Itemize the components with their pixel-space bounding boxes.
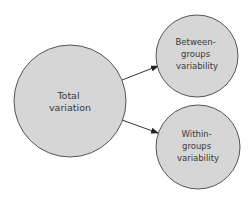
between-groups-label-line2: groups bbox=[181, 49, 211, 59]
arrow-total-to-between bbox=[122, 66, 158, 80]
within-groups-label-line1: Within- bbox=[182, 129, 212, 139]
between-groups-label-line1: Between- bbox=[176, 37, 216, 47]
arrow-total-to-within bbox=[122, 120, 158, 133]
variation-diagram: Total variation Between- groups variabil… bbox=[0, 0, 250, 200]
within-groups-label-line3: variability bbox=[177, 153, 219, 163]
node-within-groups-variability: Within- groups variability bbox=[156, 105, 240, 189]
node-total-variation: Total variation bbox=[14, 45, 126, 157]
within-groups-label-line2: groups bbox=[182, 141, 212, 151]
svg-text:Between- groups va: Between- groups variability bbox=[176, 37, 219, 71]
total-variation-label-line1: Total bbox=[56, 90, 79, 101]
total-variation-circle bbox=[14, 45, 126, 157]
total-variation-label-line2: variation bbox=[49, 102, 91, 113]
node-between-groups-variability: Between- groups variability bbox=[156, 15, 238, 97]
svg-text:Within- groups var: Within- groups variability bbox=[177, 129, 219, 163]
between-groups-label-line3: variability bbox=[176, 61, 218, 71]
